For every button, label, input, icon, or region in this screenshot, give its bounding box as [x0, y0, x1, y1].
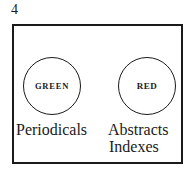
indexes-caption: Indexes: [109, 139, 159, 155]
abstracts-caption: Abstracts: [108, 122, 168, 138]
red-circle-label: RED: [137, 81, 158, 91]
page-number: 4: [11, 2, 18, 18]
red-circle: RED: [118, 57, 176, 115]
green-circle: GREEN: [23, 57, 81, 115]
periodicals-caption: Periodicals: [16, 122, 87, 138]
green-circle-label: GREEN: [35, 81, 69, 91]
